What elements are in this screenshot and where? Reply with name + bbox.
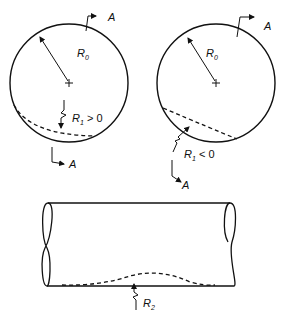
left-circle-figure: R0 R1 > 0 A A (10, 11, 128, 170)
right-center-mark (212, 79, 220, 87)
left-section-bottom-arrow (52, 147, 64, 164)
right-dashed-line (163, 108, 237, 139)
left-section-bottom-label: A (68, 158, 76, 170)
left-radius-label: R0 (77, 47, 89, 61)
right-radius-arrow (188, 38, 215, 81)
cylinder-curvature-label: R2 (143, 297, 155, 311)
left-radius-arrow (40, 37, 68, 81)
cylinder-figure: R2 (42, 203, 235, 311)
right-section-top-label: A (263, 20, 271, 32)
cylinder-left-end (42, 203, 52, 286)
right-section-bottom-label: A (181, 179, 189, 191)
right-radius-label: R0 (206, 47, 218, 61)
left-section-top-label: A (107, 11, 115, 23)
right-section-top-arrow (237, 17, 254, 37)
right-section-bottom-arrow (172, 160, 181, 182)
cylinder-curvature-pointer (133, 284, 138, 310)
left-curvature-label: R1 > 0 (72, 112, 103, 126)
cylinder-right-end (224, 203, 235, 286)
left-center-mark (65, 79, 73, 87)
left-curvature-pointer (61, 100, 66, 128)
curvature-diagram: R0 R1 > 0 A A R0 R1 < 0 A A (0, 0, 281, 315)
right-curvature-label: R1 < 0 (184, 148, 215, 162)
cylinder-dashed-curve (62, 273, 215, 285)
right-circle-figure: R0 R1 < 0 A A (157, 17, 275, 191)
